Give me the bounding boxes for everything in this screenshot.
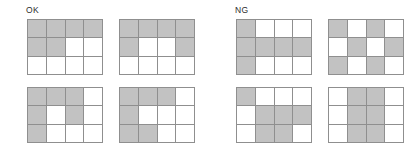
grid-cell xyxy=(120,57,139,75)
grid-cell xyxy=(237,106,256,124)
grid-ok-2 xyxy=(119,19,195,75)
grid-cell xyxy=(275,106,294,124)
grid-cell xyxy=(348,88,367,106)
grid-cell xyxy=(84,57,103,75)
grid-cell xyxy=(385,20,404,38)
grid-cell xyxy=(66,20,85,38)
grid-cell xyxy=(385,125,404,143)
grid-cell xyxy=(275,88,294,106)
grid-cell xyxy=(348,106,367,124)
grid-cell xyxy=(256,106,275,124)
grid-cell xyxy=(28,38,47,56)
grid-container-ok-1 xyxy=(27,19,103,75)
grid-cell xyxy=(329,20,348,38)
grid-cell xyxy=(139,125,158,143)
grid-cell xyxy=(385,38,404,56)
grid-cell xyxy=(139,38,158,56)
grid-cell xyxy=(84,125,103,143)
grid-container-ok-2 xyxy=(119,19,195,75)
grid-cell xyxy=(367,125,386,143)
grid-cell xyxy=(293,125,312,143)
grid-ng-4 xyxy=(328,87,404,143)
grid-cell xyxy=(47,57,66,75)
grid-cell xyxy=(120,38,139,56)
grid-ok-1 xyxy=(27,19,103,75)
grid-cell xyxy=(275,20,294,38)
grid-cell xyxy=(158,106,177,124)
group-ok: OK xyxy=(0,0,209,156)
grid-cell xyxy=(47,106,66,124)
grid-cell xyxy=(47,125,66,143)
grid-cell xyxy=(275,38,294,56)
grid-cell xyxy=(293,57,312,75)
grid-cell xyxy=(256,125,275,143)
grid-cell xyxy=(120,125,139,143)
grid-ng-2 xyxy=(328,19,404,75)
grid-cell xyxy=(367,57,386,75)
grid-cell xyxy=(237,88,256,106)
grid-cell xyxy=(158,38,177,56)
grid-cell xyxy=(84,20,103,38)
grid-ng-3 xyxy=(236,87,312,143)
grid-cell xyxy=(47,88,66,106)
grid-container-ng-1 xyxy=(236,19,312,75)
grid-cell xyxy=(66,106,85,124)
grid-ok-3 xyxy=(27,87,103,143)
grid-container-ok-4 xyxy=(119,87,195,143)
grid-cell xyxy=(28,20,47,38)
group-ng: NG xyxy=(209,0,418,156)
grid-cell xyxy=(158,88,177,106)
grid-cell xyxy=(47,20,66,38)
grid-cell xyxy=(84,38,103,56)
grid-cell xyxy=(329,38,348,56)
grid-cell xyxy=(293,20,312,38)
grid-cell xyxy=(329,106,348,124)
grid-cell xyxy=(348,38,367,56)
grid-cell xyxy=(176,106,195,124)
grid-cell xyxy=(66,88,85,106)
grid-cell xyxy=(176,20,195,38)
grid-cell xyxy=(66,57,85,75)
grid-container-ng-4 xyxy=(328,87,404,143)
grid-cell xyxy=(293,38,312,56)
grid-cell xyxy=(66,38,85,56)
grid-cell xyxy=(256,20,275,38)
grid-cell xyxy=(176,38,195,56)
grid-cell xyxy=(367,88,386,106)
grid-cell xyxy=(176,125,195,143)
grid-cell xyxy=(348,57,367,75)
grid-cell xyxy=(348,125,367,143)
grid-ng-1 xyxy=(236,19,312,75)
grid-cell xyxy=(237,20,256,38)
grid-pattern-figure: OK NG xyxy=(0,0,418,156)
grid-cell xyxy=(84,106,103,124)
grid-cell xyxy=(66,125,85,143)
grid-cell xyxy=(176,57,195,75)
grid-cell xyxy=(385,106,404,124)
grid-cell xyxy=(329,57,348,75)
grid-cell xyxy=(158,57,177,75)
grid-cell xyxy=(120,88,139,106)
grid-cell xyxy=(348,20,367,38)
grid-cell xyxy=(256,38,275,56)
grid-cell xyxy=(367,106,386,124)
grid-cell xyxy=(237,125,256,143)
grid-cell xyxy=(367,20,386,38)
grid-cell xyxy=(293,106,312,124)
grid-cell xyxy=(158,125,177,143)
grid-cell xyxy=(158,20,177,38)
grid-cell xyxy=(28,88,47,106)
grid-cell xyxy=(84,88,103,106)
grid-cell xyxy=(275,57,294,75)
grid-cell xyxy=(329,125,348,143)
grid-cell xyxy=(139,88,158,106)
grid-cell xyxy=(329,88,348,106)
grid-cell xyxy=(139,20,158,38)
grid-cell xyxy=(275,125,294,143)
grid-cell xyxy=(47,38,66,56)
grid-cell xyxy=(256,57,275,75)
grid-ok-4 xyxy=(119,87,195,143)
grid-cell xyxy=(293,88,312,106)
grid-cell xyxy=(256,88,275,106)
grid-cell xyxy=(385,88,404,106)
